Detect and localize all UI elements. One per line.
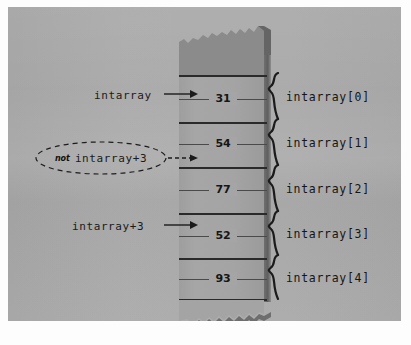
cell-value-2: 77 [179,184,267,196]
label-intarray: intarray [94,89,152,102]
brace-1-icon [266,118,282,166]
label-element-2: intarray[2] [286,182,370,196]
arrow-callout-dashed-icon [168,151,198,165]
arrow-intarray-icon [164,87,198,101]
element-boundary-3-4 [179,258,267,260]
callout-expression: intarray+3 [75,152,147,165]
callout-qualifier: not [55,154,70,163]
cell-value-4: 93 [179,273,267,285]
brace-3-icon [266,210,282,256]
label-element-4: intarray[4] [286,271,370,285]
brace-0-icon [266,72,282,120]
brace-2-icon [266,164,282,212]
element-boundary-top [179,75,267,77]
label-element-1: intarray[1] [286,136,370,150]
label-intarray-plus-3: intarray+3 [72,220,144,233]
element-boundary-0-1 [179,122,267,124]
label-element-3: intarray[3] [286,227,370,241]
photo-plate: 31 54 77 52 93 intarray intarray+3 [8,7,401,321]
callout-text: not intarray+3 [34,140,168,176]
element-boundary-2-3 [179,213,267,215]
brace-4-icon [266,254,282,300]
figure-root: 31 54 77 52 93 intarray intarray+3 [0,0,411,345]
label-element-0: intarray[0] [286,90,370,104]
callout-not-intarray-plus-3: not intarray+3 [34,140,168,176]
torn-paper-top-icon [179,26,271,57]
element-boundary-1-2 [179,167,267,169]
column-unknown-memory-shade [179,55,267,77]
arrow-intarray-plus-3-icon [164,218,198,232]
cell-value-1: 54 [179,138,267,150]
torn-paper-bottom-icon [179,300,271,321]
